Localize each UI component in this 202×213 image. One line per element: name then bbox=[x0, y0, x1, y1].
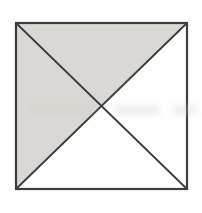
geometry-figure bbox=[0, 0, 202, 213]
square-with-diagonals-svg bbox=[0, 0, 202, 213]
